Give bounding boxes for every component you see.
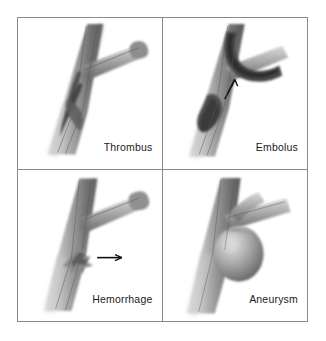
panel-label-embolus: Embolus xyxy=(256,141,298,153)
aneurysm-sac xyxy=(213,225,263,281)
panel-thrombus: Thrombus xyxy=(18,18,163,170)
panel-grid: Thrombus xyxy=(17,17,308,322)
panel-hemorrhage: Hemorrhage xyxy=(18,170,163,322)
panel-embolus: Embolus xyxy=(163,18,308,170)
panel-label-aneurysm: Aneurysm xyxy=(249,293,298,305)
panel-label-hemorrhage: Hemorrhage xyxy=(92,293,152,305)
hemorrhage-arrow xyxy=(97,254,122,260)
vascular-pathology-figure: Thrombus xyxy=(0,0,326,341)
panel-aneurysm: Aneurysm xyxy=(163,170,308,322)
panel-label-thrombus: Thrombus xyxy=(104,141,153,153)
